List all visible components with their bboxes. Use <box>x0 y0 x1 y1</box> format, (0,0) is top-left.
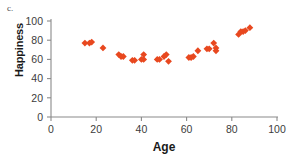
scatter-plot-figure: c. Happiness 020406080100 020406080100 A… <box>0 0 297 162</box>
x-tick-label: 80 <box>226 123 238 135</box>
y-tick-label: 20 <box>31 92 43 104</box>
x-tick-label: 60 <box>181 123 193 135</box>
x-tick-label: 40 <box>136 123 148 135</box>
x-tick-label: 100 <box>268 123 286 135</box>
plot-canvas: 020406080100 020406080100 <box>0 0 297 162</box>
y-tick-label: 60 <box>31 53 43 65</box>
data-point <box>100 44 107 51</box>
x-tick-labels: 020406080100 <box>48 123 286 135</box>
x-tick-label: 0 <box>48 123 54 135</box>
y-tick-label: 100 <box>25 15 43 27</box>
data-point-group <box>82 24 254 64</box>
x-tick-label: 20 <box>90 123 102 135</box>
y-tick-label: 0 <box>37 111 43 123</box>
y-tick-labels: 020406080100 <box>25 15 43 123</box>
y-tick-label: 80 <box>31 34 43 46</box>
y-tick-marks <box>47 21 51 117</box>
x-tick-marks <box>51 117 277 121</box>
y-tick-label: 40 <box>31 72 43 84</box>
x-axis-title: Age <box>51 140 277 154</box>
data-point <box>165 58 172 65</box>
data-point <box>195 47 202 54</box>
